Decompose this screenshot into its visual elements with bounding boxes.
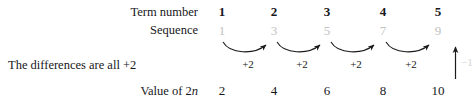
sequence-value-cell: 1 xyxy=(208,24,236,38)
value-cell: 2 xyxy=(208,84,236,98)
sequence-value-cell: 3 xyxy=(260,24,288,38)
value-cell: 4 xyxy=(260,84,288,98)
difference-label: +2 xyxy=(340,58,372,70)
difference-label: +2 xyxy=(286,58,318,70)
term-number-cell: 2 xyxy=(260,5,288,19)
term-number-cell: 4 xyxy=(369,5,397,19)
difference-arrow xyxy=(386,42,429,52)
term-number-cell: 3 xyxy=(313,5,341,19)
term-number-cell: 5 xyxy=(424,5,452,19)
value-cell: 6 xyxy=(313,84,341,98)
sequence-value-cell: 9 xyxy=(424,24,452,38)
offset-annotation: −1 xyxy=(461,56,473,68)
term-number-cell: 1 xyxy=(208,5,236,19)
sequence-value-cell: 7 xyxy=(369,24,397,38)
difference-label: +2 xyxy=(232,58,264,70)
differences-statement: The differences are all +2 xyxy=(8,58,136,72)
value-of-2n-label: Value of 2n xyxy=(48,84,198,98)
term-number-label: Term number xyxy=(48,5,198,19)
sequence-difference-diagram: Term number Sequence The differences are… xyxy=(0,0,474,107)
difference-arrow xyxy=(277,42,320,52)
variable-n: n xyxy=(192,84,198,98)
difference-label: +2 xyxy=(395,58,427,70)
difference-arrow xyxy=(223,42,266,52)
sequence-value-cell: 5 xyxy=(313,24,341,38)
value-of-2n-prefix: Value of 2 xyxy=(140,84,191,98)
sequence-label: Sequence xyxy=(48,23,198,37)
value-cell: 8 xyxy=(369,84,397,98)
value-cell: 10 xyxy=(422,84,454,98)
difference-arrow xyxy=(331,42,374,52)
